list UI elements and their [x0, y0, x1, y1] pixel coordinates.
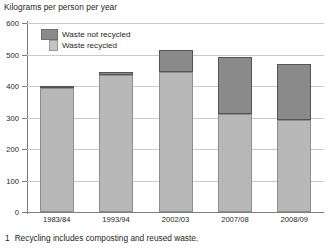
y-axis-tick-label: 200 — [6, 145, 19, 154]
bar-segment-waste-not-recycled — [159, 50, 193, 72]
bar — [277, 64, 311, 212]
bar-segment-waste-not-recycled — [99, 72, 133, 75]
x-axis-tick-label: 1983/84 — [27, 215, 87, 224]
bar-segment-waste-not-recycled — [277, 64, 311, 120]
bar — [159, 50, 193, 212]
x-axis-tick-label: 1993/94 — [86, 215, 146, 224]
gridline — [27, 23, 324, 24]
bar — [40, 86, 74, 212]
plot-area — [27, 23, 324, 212]
chart-axis-title: Kilograms per person per year — [4, 2, 117, 12]
footnote-text: Recycling includes composting and reused… — [15, 233, 199, 243]
y-axis-tick-label: 600 — [6, 19, 19, 28]
y-axis-tick-label: 100 — [6, 176, 19, 185]
bar-segment-waste-recycled — [277, 120, 311, 212]
x-axis-tick-label: 2008/09 — [264, 215, 324, 224]
bar-segment-waste-recycled — [218, 114, 252, 212]
chart-container: Kilograms per person per year Waste not … — [0, 0, 331, 248]
bar-segment-waste-not-recycled — [40, 86, 74, 88]
chart-footnote: 1Recycling includes composting and reuse… — [5, 233, 198, 243]
y-axis-tick-label: 500 — [6, 50, 19, 59]
x-axis-tick-label: 2002/03 — [146, 215, 206, 224]
y-axis-tick-label: 400 — [6, 82, 19, 91]
bar-segment-waste-not-recycled — [218, 57, 252, 114]
footnote-number: 1 — [5, 233, 10, 243]
y-axis-tick-label: 0 — [15, 208, 19, 217]
bar — [218, 57, 252, 212]
x-axis-tick-label: 2007/08 — [205, 215, 265, 224]
bar-segment-waste-recycled — [40, 88, 74, 212]
bar — [99, 72, 133, 212]
x-axis-line — [27, 212, 324, 213]
bar-segment-waste-recycled — [159, 72, 193, 212]
y-axis-tick-label: 300 — [6, 113, 19, 122]
bar-segment-waste-recycled — [99, 75, 133, 212]
